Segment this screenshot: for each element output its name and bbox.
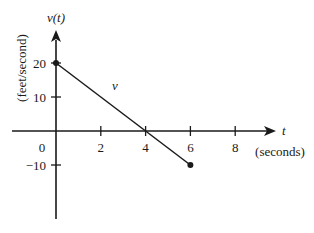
series-line bbox=[56, 63, 190, 165]
x-axis-label: t bbox=[282, 123, 286, 138]
x-tick-label: 4 bbox=[142, 140, 149, 155]
x-tick-label: 6 bbox=[187, 140, 194, 155]
series-v bbox=[53, 60, 193, 168]
y-axis-units-label: (feet/second) bbox=[14, 34, 29, 102]
labels: v(t) (feet/second) t (seconds) v bbox=[14, 10, 305, 159]
ticks: 024682010−10 bbox=[26, 56, 239, 173]
x-tick-label: 0 bbox=[39, 140, 46, 155]
y-tick-label: 10 bbox=[33, 90, 46, 105]
y-tick-label: −10 bbox=[26, 158, 46, 173]
y-tick-label: 20 bbox=[33, 56, 46, 71]
y-axis-label: v(t) bbox=[47, 10, 65, 25]
x-axis-units-label: (seconds) bbox=[255, 144, 305, 159]
series-label-v: v bbox=[112, 78, 118, 93]
velocity-chart: 024682010−10 v(t) (feet/second) t (secon… bbox=[0, 0, 314, 233]
axes bbox=[12, 30, 276, 219]
x-tick-label: 2 bbox=[98, 140, 105, 155]
x-tick-label: 8 bbox=[232, 140, 239, 155]
end-point-marker bbox=[187, 162, 193, 168]
start-point-marker bbox=[53, 60, 59, 66]
